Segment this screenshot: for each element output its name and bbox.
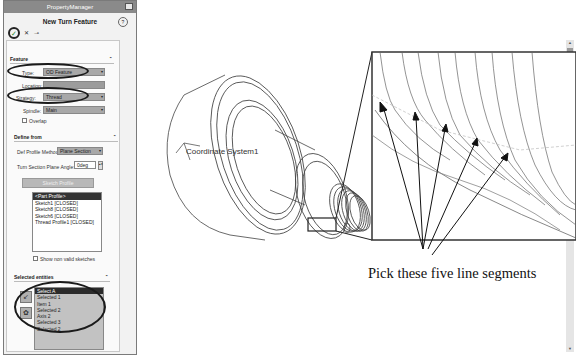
spindle-value: Main [46,107,57,113]
define-from-group-header[interactable]: Define from ⌃ [14,134,118,142]
chevron-down-icon: ▾ [101,107,103,113]
selected-entities-title: Selected entities [14,274,53,280]
spindle-select[interactable]: Main ▾ [43,106,105,114]
chevron-up-icon[interactable]: ⌃ [113,134,116,139]
zoom-callout-line [336,231,372,240]
property-manager-title: PropertyManager [47,4,93,10]
overlap-label: Overlap [29,118,47,124]
action-row: ✓ ✕ ⊸ [4,25,136,41]
cancel-button[interactable]: ✕ [24,29,29,36]
feature-group-title: Feature [10,56,28,62]
zoom-region-box [308,218,336,231]
show-non-valid-label: Show non valid sketches [40,256,95,262]
show-non-valid-checkbox[interactable] [33,256,38,261]
chevron-down-icon: ▾ [101,94,103,100]
sketch-list[interactable]: <Part Profile> Sketch1 [CLOSED] Sketch8 … [32,192,102,252]
highlight-oval-type [7,63,89,79]
pushpin-icon[interactable] [125,3,133,10]
highlight-oval-entities [14,281,106,333]
angle-label: Turn Section Plane Angle: [17,164,75,170]
highlight-oval-strategy [7,87,89,104]
define-from-title: Define from [14,134,42,140]
chevron-up-icon[interactable]: ⌃ [109,56,112,61]
sketch-profile-button[interactable]: Sketch Profile [22,178,94,188]
graphics-viewport[interactable] [140,0,576,357]
coordinate-system-label: Coordinate System1 [186,147,258,156]
overlap-checkbox[interactable] [22,118,27,123]
chevron-down-icon: ▾ [101,69,103,75]
feature-title-row: New Turn Feature ? [4,18,136,25]
angle-input[interactable]: 0deg [74,161,96,169]
list-item[interactable]: Thread Profile1 [CLOSED] [33,219,101,226]
profile-method-value: Plane Section [60,148,91,154]
pin-button[interactable]: ⊸ [34,29,39,36]
feature-title: New Turn Feature [43,18,97,25]
sketch-profile-label: Sketch Profile [43,180,74,186]
ok-button[interactable]: ✓ [8,27,20,39]
angle-spinner[interactable]: ▴▾ [98,161,103,170]
angle-value: 0deg [77,162,88,168]
spindle-label: Spindle: [23,108,41,114]
property-manager-titlebar: PropertyManager [4,1,136,13]
profile-method-label: Def Profile Method: [17,149,60,155]
annotation-caption: Pick these five line segments [368,265,536,282]
chevron-down-icon: ▾ [99,148,101,154]
chevron-up-icon[interactable]: ⌃ [105,274,108,279]
profile-method-select[interactable]: Plane Section ▾ [57,147,103,155]
